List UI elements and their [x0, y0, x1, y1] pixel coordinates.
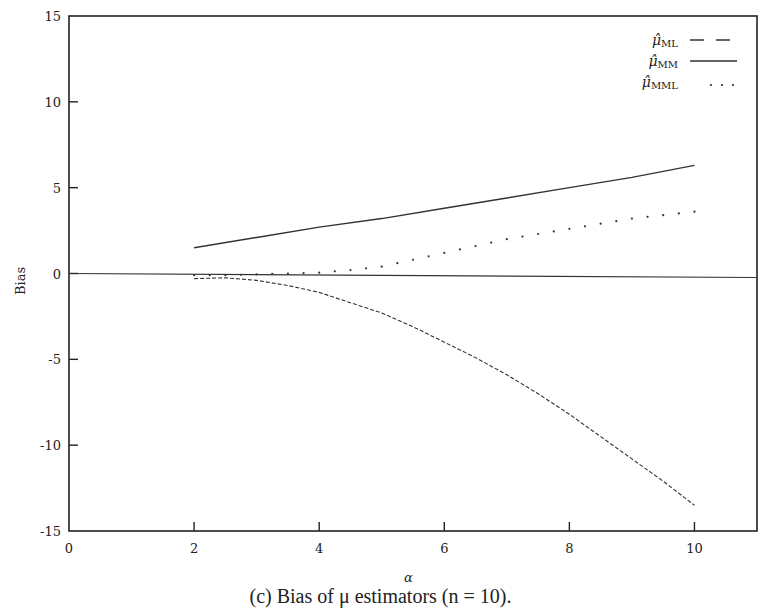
series-mml-dot — [271, 273, 273, 275]
zero-line — [69, 274, 757, 278]
series-mml-dot — [381, 266, 383, 268]
legend-label-mm: μ̂MM — [648, 53, 678, 70]
series-mml-dot — [318, 272, 320, 274]
series-mml-dot — [553, 230, 555, 232]
series-mml-dot — [568, 228, 570, 230]
series-mml-dot — [256, 273, 258, 275]
series-mml-dot — [678, 212, 680, 214]
series-mml-dot — [693, 211, 695, 213]
x-tick-label: 4 — [315, 541, 323, 556]
legend-sample-dotted — [710, 84, 712, 86]
y-tick-label: -15 — [40, 524, 61, 539]
series-mml-dot — [506, 238, 508, 240]
legend-sample-dotted — [721, 84, 723, 86]
series-mml-dot — [287, 272, 289, 274]
bias-chart: 151050-5-10-15 0246810 μ̂MLμ̂MMμ̂MML Bia… — [0, 0, 761, 614]
series-mml-dot — [459, 248, 461, 250]
plot-frame — [69, 16, 757, 531]
y-tick-label: 15 — [44, 9, 61, 24]
y-axis-label: Bias — [13, 267, 28, 295]
legend-label-ml: μ̂ML — [652, 32, 678, 49]
series-mml-dot — [302, 272, 304, 274]
series-mml-dot — [615, 220, 617, 222]
y-tick-label: -5 — [48, 352, 61, 367]
x-axis-label: α — [404, 570, 413, 585]
series-mml-dot — [490, 242, 492, 244]
series-mml-dot — [396, 262, 398, 264]
series-mm-line — [194, 165, 694, 247]
series-mml-dot — [537, 233, 539, 235]
series-mml-dot — [474, 245, 476, 247]
series-mml-dot — [521, 235, 523, 237]
x-tick-label: 0 — [65, 541, 73, 556]
series-ml-line — [194, 278, 694, 505]
legend-label-mml: μ̂MML — [642, 74, 679, 91]
series-mml-dot — [209, 274, 211, 276]
series-mml-dot — [365, 267, 367, 269]
series-mml-dot — [428, 255, 430, 257]
series-mml-dot — [193, 274, 195, 276]
x-axis-ticks: 0246810 — [65, 522, 703, 556]
data-series — [193, 165, 696, 505]
legend-sample-dotted — [732, 84, 734, 86]
x-tick-label: 6 — [440, 541, 448, 556]
x-tick-label: 8 — [565, 541, 573, 556]
series-mml-dot — [349, 269, 351, 271]
series-mml-dot — [443, 252, 445, 254]
x-tick-label: 10 — [686, 541, 703, 556]
legend: μ̂MLμ̂MMμ̂MML — [642, 32, 737, 91]
y-tick-label: -10 — [40, 438, 61, 453]
y-tick-label: 5 — [53, 181, 61, 196]
series-mml-dot — [631, 217, 633, 219]
zero-reference-line — [69, 274, 757, 278]
y-tick-label: 0 — [53, 267, 61, 282]
series-mml-dot — [646, 216, 648, 218]
x-tick-label: 2 — [190, 541, 198, 556]
series-mml-dot — [334, 270, 336, 272]
figure-caption: (c) Bias of μ estimators (n = 10). — [0, 585, 761, 608]
series-mml-dot — [240, 274, 242, 276]
series-mml-dot — [224, 274, 226, 276]
series-mml-dot — [412, 259, 414, 261]
y-tick-label: 10 — [44, 95, 61, 110]
series-mml-dot — [600, 223, 602, 225]
series-mml-dot — [662, 214, 664, 216]
series-mml-dot — [584, 225, 586, 227]
